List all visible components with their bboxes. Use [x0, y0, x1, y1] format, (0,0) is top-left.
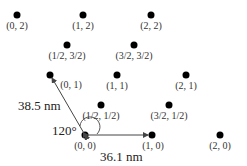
- lattice-point: [217, 132, 224, 139]
- point-label: (2, 1): [175, 80, 197, 92]
- vertical-measure: 38.5 nm: [18, 98, 61, 113]
- lattice-point: [183, 72, 190, 79]
- lattice-point: [149, 132, 156, 139]
- lattice-point: [148, 12, 155, 19]
- lattice-point: [98, 102, 105, 109]
- point-label: (2, 2): [140, 20, 162, 32]
- lattice-point: [14, 12, 21, 19]
- lattice-point: [64, 42, 71, 49]
- point-label: (3/2, 3/2): [115, 50, 152, 62]
- point-label: (1, 0): [142, 140, 164, 152]
- point-label: (1, 1): [106, 80, 128, 92]
- lattice-point: [131, 42, 138, 49]
- lattice-diagram: (0, 2)(1, 2)(2, 2)(1/2, 3/2)(3/2, 3/2)(0…: [0, 0, 247, 166]
- point-label: (2, 0): [209, 140, 231, 152]
- point-label: (1/2, 1/2): [82, 110, 119, 122]
- point-label: (0, 1): [60, 79, 82, 91]
- lattice-point: [166, 102, 173, 109]
- point-label: (3/2, 1/2): [150, 110, 187, 122]
- angle-label: 120°: [52, 123, 77, 138]
- lattice-point: [114, 72, 121, 79]
- point-label: (0, 2): [6, 20, 28, 32]
- point-label: (1/2, 3/2): [48, 50, 85, 62]
- point-label: (0, 0): [74, 140, 96, 152]
- lattice-point: [47, 72, 54, 79]
- horizontal-measure: 36.1 nm: [100, 149, 143, 164]
- point-label: (1, 2): [72, 20, 94, 32]
- lattice-point: [80, 12, 87, 19]
